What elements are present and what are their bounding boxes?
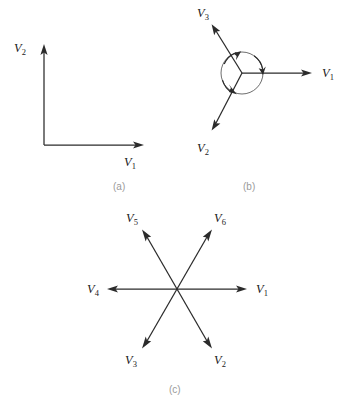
panel-c-label-v5: V5 — [126, 211, 138, 227]
panel-c-vector-v5 — [142, 230, 177, 289]
panel-b-vector-v2-shaft — [216, 73, 242, 123]
panel-c-vector-v2-arrowhead — [203, 336, 212, 348]
panel-b-vector-v3-arrowhead — [212, 24, 221, 35]
panel-b-arc-1-path — [254, 56, 263, 70]
panel-c-vector-v5-arrowhead — [142, 230, 151, 242]
panel-b: V1 V3 V2 (b) — [197, 6, 334, 192]
panel-a: V2 V1 (a) — [14, 41, 144, 192]
panel-b-label-v3: V3 — [197, 6, 209, 22]
panel-b-label-v2: V2 — [197, 141, 209, 157]
panel-b-caption: (b) — [243, 181, 255, 192]
panel-a-vector-v2 — [40, 44, 47, 145]
figure-canvas: V2 V1 (a) — [0, 0, 344, 409]
panel-a-label-v1: V1 — [124, 155, 136, 171]
panel-a-label-v2: V2 — [14, 41, 26, 57]
panel-a-vector-v1 — [44, 141, 144, 148]
panel-c-vector-v1 — [177, 285, 247, 292]
panel-c-vector-v6-shaft — [177, 237, 207, 289]
panel-c-vector-v5-shaft — [147, 237, 177, 289]
panel-c-vector-v2 — [177, 289, 212, 348]
panel-c-label-v6: V6 — [214, 211, 226, 227]
panel-c-vector-v3 — [142, 289, 177, 348]
panel-b-vector-v2-arrowhead — [212, 119, 221, 130]
panel-b-label-v1: V1 — [322, 66, 334, 82]
panel-a-caption: (a) — [113, 181, 125, 192]
panel-c-vector-v6 — [177, 230, 212, 289]
panel-c-vector-v3-arrowhead — [142, 336, 151, 348]
panel-c-vector-v3-shaft — [147, 289, 177, 341]
panel-c-caption: (c) — [169, 384, 181, 395]
panel-b-arc-2-arrowhead — [233, 51, 241, 60]
panel-c-label-v1: V1 — [256, 282, 268, 298]
panel-c-label-v4: V4 — [87, 282, 100, 298]
panel-b-vector-v2 — [212, 73, 242, 130]
panel-b-vector-v3 — [212, 24, 242, 73]
panel-c-label-v2: V2 — [214, 353, 226, 369]
panel-c-vector-v6-arrowhead — [203, 230, 212, 242]
panel-b-vector-v1 — [242, 69, 312, 76]
panel-c-vector-v2-shaft — [177, 289, 207, 341]
vector-diagram-svg: V2 V1 (a) — [0, 0, 344, 409]
panel-c: V1 V2 V3 V4 V5 V6 (c) — [87, 211, 268, 395]
panel-c-vector-v4 — [107, 285, 177, 292]
panel-b-arc-1 — [254, 56, 266, 75]
panel-c-label-v3: V3 — [125, 353, 137, 369]
